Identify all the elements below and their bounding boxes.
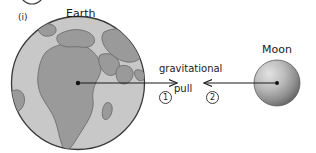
gravitational-pull-diagram: (i) Earth Moon gravitational pull 1 2 (0, 0, 316, 153)
part-label: (i) (18, 13, 28, 22)
diagram-canvas (0, 0, 316, 153)
earth-label: Earth (66, 8, 96, 19)
moon-center-dot (275, 81, 279, 85)
arrow-marker-1: 1 (159, 91, 172, 104)
force-label-line-1: gravitational (159, 64, 222, 74)
moon-label: Moon (262, 44, 292, 55)
force-label-line-2: pull (174, 84, 192, 94)
cropped-circle-above (20, 0, 44, 4)
arrow-marker-2: 2 (206, 91, 219, 104)
